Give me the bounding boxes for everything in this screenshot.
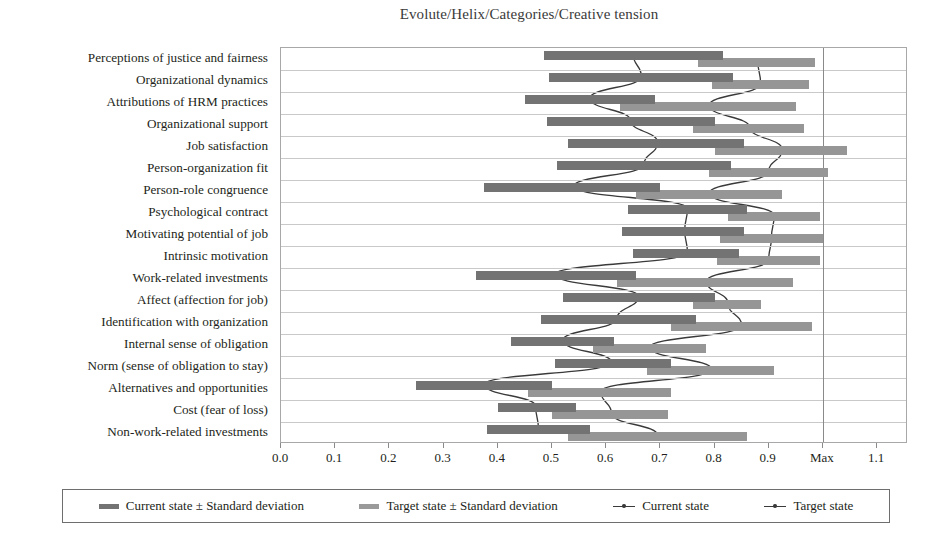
bar-current-state — [568, 139, 744, 148]
gridline-horizontal — [281, 422, 906, 423]
x-tick-label: 0.1 — [304, 450, 364, 466]
chart-title-text: Evolute/Helix/Categories/Creative tensio… — [400, 6, 659, 23]
x-tick-label: 1.1 — [846, 450, 906, 466]
bar-current-state — [628, 205, 747, 214]
bar-current-state — [476, 271, 636, 280]
category-label: Internal sense of obligation — [124, 337, 268, 351]
gridline-horizontal — [281, 114, 906, 115]
legend-line-icon — [764, 501, 786, 511]
bar-current-state — [416, 381, 551, 390]
category-label: Intrinsic motivation — [164, 249, 268, 263]
gridline-horizontal — [281, 400, 906, 401]
gridline-horizontal — [281, 334, 906, 335]
x-tick-mark — [768, 443, 769, 448]
legend-item[interactable]: Target state ± Standard deviation — [359, 498, 557, 514]
gridline-horizontal — [281, 268, 906, 269]
gridline-horizontal — [281, 312, 906, 313]
x-tick-mark — [280, 443, 281, 448]
x-tick-label: 0.3 — [413, 450, 473, 466]
category-label: Cost (fear of loss) — [173, 403, 268, 417]
legend-item-label: Current state — [642, 498, 709, 514]
x-tick-mark — [822, 443, 823, 448]
bar-current-state — [541, 315, 695, 324]
category-label: Attributions of HRM practices — [106, 95, 268, 109]
category-label: Motivating potential of job — [126, 227, 268, 241]
x-tick-mark — [551, 443, 552, 448]
chart-title: Evolute/Helix/Categories/Creative tensio… — [0, 6, 948, 23]
bar-current-state — [549, 73, 733, 82]
category-label: Perceptions of justice and fairness — [88, 51, 268, 65]
legend-item-label: Target state — [793, 498, 853, 514]
gridline-horizontal — [281, 246, 906, 247]
category-label: Norm (sense of obligation to stay) — [87, 359, 268, 373]
chart-container: Evolute/Helix/Categories/Creative tensio… — [0, 0, 948, 537]
bar-current-state — [511, 337, 614, 346]
plot-area — [280, 47, 907, 443]
bar-current-state — [547, 117, 715, 126]
gridline-horizontal — [281, 356, 906, 357]
category-label: Non-work-related investments — [107, 425, 268, 439]
max-reference-line — [823, 48, 824, 442]
category-label: Work-related investments — [132, 271, 268, 285]
bar-current-state — [557, 161, 730, 170]
gridline-horizontal — [281, 180, 906, 181]
gridline-horizontal — [281, 92, 906, 93]
legend-swatch-current-icon — [99, 504, 119, 509]
x-tick-mark — [714, 443, 715, 448]
category-label: Identification with organization — [101, 315, 268, 329]
x-tick-mark — [497, 443, 498, 448]
x-tick-mark — [334, 443, 335, 448]
category-label: Psychological contract — [148, 205, 268, 219]
gridline-horizontal — [281, 290, 906, 291]
x-tick-label: Max — [792, 450, 852, 466]
x-tick-label: 0.8 — [684, 450, 744, 466]
x-tick-label: 0.6 — [575, 450, 635, 466]
x-tick-label: 0.2 — [358, 450, 418, 466]
category-label: Person-role congruence — [143, 183, 268, 197]
x-tick-label: 0.4 — [467, 450, 527, 466]
legend-line-icon — [613, 501, 635, 511]
gridline-horizontal — [281, 378, 906, 379]
category-label: Organizational dynamics — [136, 73, 268, 87]
category-label: Organizational support — [147, 117, 268, 131]
legend-item-label: Current state ± Standard deviation — [126, 498, 304, 514]
legend-item[interactable]: Target state — [764, 498, 853, 514]
legend-item-label: Target state ± Standard deviation — [386, 498, 557, 514]
bar-current-state — [544, 51, 723, 60]
x-tick-label: 0.9 — [738, 450, 798, 466]
bar-current-state — [525, 95, 655, 104]
x-tick-label: 0.5 — [521, 450, 581, 466]
x-tick-mark — [605, 443, 606, 448]
x-tick-mark — [659, 443, 660, 448]
legend-item[interactable]: Current state ± Standard deviation — [99, 498, 304, 514]
legend-item[interactable]: Current state — [613, 498, 709, 514]
category-label: Job satisfaction — [186, 139, 268, 153]
x-tick-label: 0.7 — [629, 450, 689, 466]
gridline-horizontal — [281, 158, 906, 159]
category-axis: Perceptions of justice and fairnessOrgan… — [0, 47, 276, 443]
bar-target-state — [568, 432, 747, 441]
gridline-horizontal — [281, 70, 906, 71]
bar-target-state — [617, 278, 793, 287]
chart-legend: Current state ± Standard deviationTarget… — [62, 489, 890, 523]
x-tick-mark — [876, 443, 877, 448]
gridline-horizontal — [281, 136, 906, 137]
bar-current-state — [498, 403, 577, 412]
bar-current-state — [563, 293, 715, 302]
category-label: Alternatives and opportunities — [108, 381, 268, 395]
x-tick-mark — [443, 443, 444, 448]
bar-current-state — [622, 227, 744, 236]
category-label: Affect (affection for job) — [137, 293, 268, 307]
x-tick-label: 0.0 — [250, 450, 310, 466]
legend-swatch-target-icon — [359, 504, 379, 509]
category-label: Person-organization fit — [147, 161, 268, 175]
x-axis: 0.00.10.20.30.40.50.60.70.80.9Max1.1 — [280, 443, 907, 477]
gridline-horizontal — [281, 202, 906, 203]
gridline-horizontal — [281, 224, 906, 225]
bar-current-state — [484, 183, 660, 192]
bar-current-state — [633, 249, 739, 258]
bar-current-state — [555, 359, 672, 368]
bar-current-state — [487, 425, 590, 434]
x-tick-mark — [388, 443, 389, 448]
